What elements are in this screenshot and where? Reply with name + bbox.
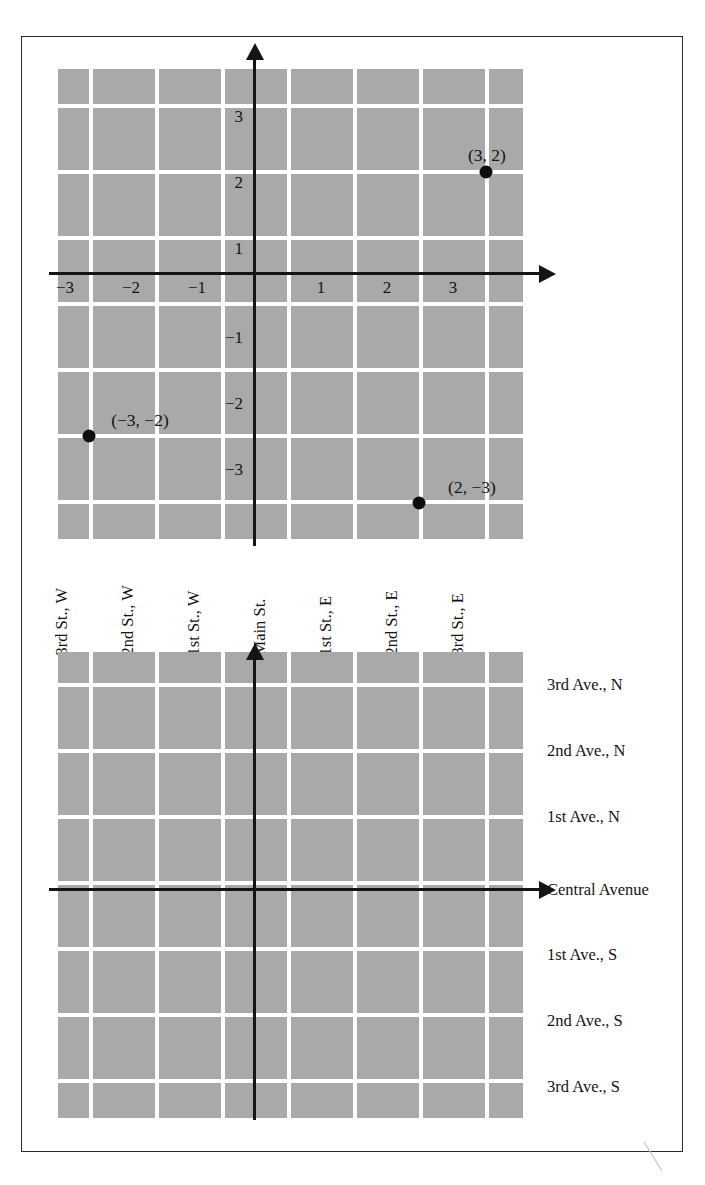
grid-line-vertical [485,652,489,1118]
avenue-label-2nd-ave-s: 2nd Ave., S [547,1013,623,1030]
x-axis [49,272,539,275]
x-tick-label: 1 [317,279,326,296]
street-label-1st-st-w: 1st St., W [186,591,203,656]
grid-line-horizontal [58,236,523,240]
grid-line-vertical [419,652,423,1118]
plotted-point [413,497,426,510]
grid-line-horizontal [58,749,523,753]
x-tick-label: −1 [188,279,206,296]
plotted-point [480,166,493,179]
x-tick-label: 2 [383,279,392,296]
y-axis [253,59,256,546]
y-tick-label: 2 [218,174,243,191]
central-avenue-axis [49,888,539,891]
street-map-grid [58,652,523,1118]
y-tick-label: −2 [210,395,243,412]
figure-border-frame: −3 −2 −1 1 2 3 3 2 1 −1 −2 −3 (3, 2) (−3… [21,36,683,1152]
grid-line-vertical [89,652,93,1118]
y-tick-label: 3 [218,108,243,125]
coordinate-plane-grid [58,69,523,539]
street-label-2nd-st-e: 2nd St., E [384,590,401,655]
grid-line-horizontal [58,104,523,108]
street-label-3rd-st-w: 3rd St., W [54,588,71,656]
grid-line-vertical [155,652,159,1118]
grid-line-vertical [287,652,291,1118]
point-label: (3, 2) [468,147,506,165]
street-label-1st-st-e: 1st St., E [318,596,335,656]
avenue-label-central-avenue: Central Avenue [547,882,649,899]
grid-line-horizontal [58,1013,523,1017]
grid-line-horizontal [58,1079,523,1083]
grid-line-vertical [221,652,225,1118]
grid-line-vertical [353,652,357,1118]
grid-line-horizontal [58,947,523,951]
grid-line-horizontal [58,500,523,504]
grid-line-horizontal [58,368,523,372]
grid-line-horizontal [58,302,523,306]
street-label-2nd-st-w: 2nd St., W [120,585,137,655]
avenue-label-2nd-ave-n: 2nd Ave., N [547,743,626,760]
grid-line-horizontal [58,815,523,819]
x-tick-label: 3 [449,279,458,296]
street-label-3rd-st-e: 3rd St., E [450,593,467,655]
point-label: (2, −3) [448,479,496,497]
avenue-label-1st-ave-n: 1st Ave., N [547,809,620,826]
x-axis-arrowhead-icon [539,265,556,283]
avenue-label-1st-ave-s: 1st Ave., S [547,947,617,964]
avenue-label-3rd-ave-s: 3rd Ave., S [547,1079,620,1096]
grid-line-horizontal [58,170,523,174]
grid-line-horizontal [58,683,523,687]
main-street-arrowhead-icon [246,643,264,660]
plotted-point [83,430,96,443]
grid-line-horizontal [58,881,523,885]
y-tick-label: −1 [210,329,243,346]
x-tick-label: −3 [56,279,74,296]
x-tick-label: −2 [122,279,140,296]
y-axis-arrowhead-icon [246,43,264,60]
y-tick-label: −3 [210,461,243,478]
y-tick-label: 1 [218,240,243,257]
grid-line-horizontal [58,434,523,438]
point-label: (−3, −2) [111,412,169,430]
avenue-label-3rd-ave-n: 3rd Ave., N [547,677,623,694]
